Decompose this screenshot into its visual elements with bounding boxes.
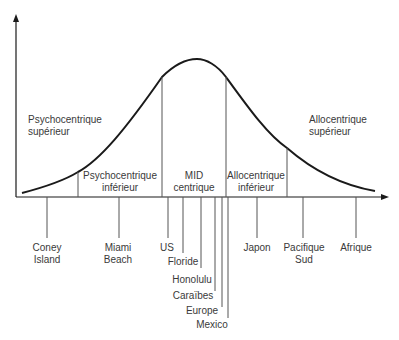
region-label-mid: MID centrique [173,170,214,194]
destination-label-japon: Japon [243,242,270,254]
destination-label-coney-island: Coney Island [33,242,62,266]
y-axis-arrow-icon [13,14,19,22]
region-label-allo-inf: Allocentrique inférieur [227,170,285,194]
destination-label-pacifique-sud: Pacifique Sud [283,242,324,266]
destination-label-afrique: Afrique [340,242,372,254]
destination-label-caraibes: Caraïbes [173,290,214,302]
psychographic-distribution-diagram: Psychocentrique supérieur Psychocentriqu… [0,0,399,340]
region-label-psycho-sup: Psychocentrique supérieur [28,114,102,138]
destination-label-mexico: Mexico [196,319,228,331]
destination-label-miami-beach: Miami Beach [104,242,132,266]
region-label-psycho-inf: Psychocentrique inférieur [83,170,157,194]
region-label-allo-sup: Allocentrique supérieur [309,114,367,138]
destination-label-honolulu: Honolulu [172,274,211,286]
x-axis-arrow-icon [381,194,389,200]
destination-label-europe: Europe [186,305,218,317]
destination-label-us: US [160,242,174,254]
destination-label-floride: Floride [168,256,199,268]
